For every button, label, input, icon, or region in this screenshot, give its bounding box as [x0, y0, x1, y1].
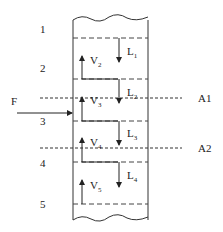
liquid-label: L4: [127, 169, 138, 184]
liquid-label: L2: [127, 86, 138, 101]
column-diagram: F 1 2 3 4 5 L1 L2 L3 L4 V2 V3 V4 V5 A1 A…: [0, 0, 223, 232]
liquid-label: L1: [127, 45, 138, 60]
section-label-a2: A2: [198, 142, 211, 154]
vapor-label: V5: [90, 179, 102, 194]
feed-label: F: [11, 95, 17, 107]
stage-label: 3: [40, 115, 46, 127]
section-lines: [40, 98, 182, 148]
vapor-label: V2: [90, 54, 102, 69]
vapor-arrows: [82, 56, 118, 204]
vapor-label: V4: [90, 136, 102, 151]
section-label-a1: A1: [198, 92, 211, 104]
vapor-label: V3: [90, 94, 102, 109]
liquid-label: L3: [127, 127, 138, 142]
stage-label: 1: [40, 23, 46, 35]
column-shell: [73, 15, 148, 221]
stage-label: 5: [40, 198, 46, 210]
stage-label: 4: [40, 157, 46, 169]
stage-label: 2: [40, 62, 46, 74]
